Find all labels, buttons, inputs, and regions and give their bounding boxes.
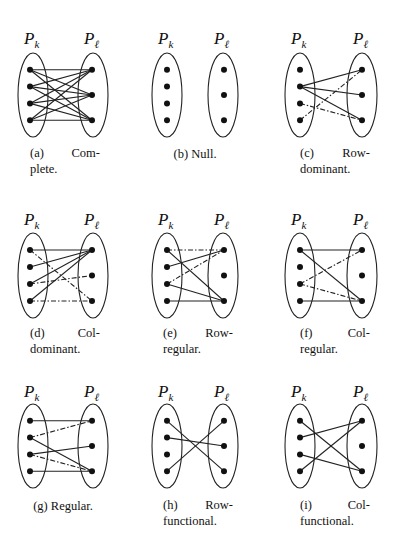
node-k <box>297 435 303 441</box>
node-k <box>164 298 170 304</box>
label-p-l: Pℓ <box>84 30 99 50</box>
node-l <box>221 273 227 279</box>
node-k <box>27 84 33 90</box>
node-l <box>221 443 227 449</box>
node-k <box>164 468 170 474</box>
node-l <box>89 273 95 279</box>
node-k <box>297 247 303 253</box>
node-k <box>27 418 33 424</box>
label-p-l: Pℓ <box>84 211 99 231</box>
label-p-k: Pk <box>24 30 39 50</box>
label-p-k: Pk <box>291 30 306 50</box>
node-l <box>359 273 365 279</box>
label-p-k: Pk <box>291 383 306 403</box>
edge-solid <box>30 250 92 284</box>
partition-k-ellipse <box>152 53 182 137</box>
node-k <box>164 264 170 270</box>
bipartite-diagram-grid <box>0 0 393 550</box>
label-p-k: Pk <box>291 211 306 231</box>
node-k <box>297 100 303 106</box>
node-l <box>221 67 227 73</box>
label-p-k: Pk <box>24 383 39 403</box>
partition-k-ellipse <box>285 233 315 318</box>
node-k <box>27 100 33 106</box>
edge-dashdot <box>300 284 362 301</box>
label-p-l: Pℓ <box>214 383 229 403</box>
node-l <box>221 92 227 98</box>
panel-c <box>285 53 377 137</box>
node-l <box>221 247 227 253</box>
partition-k-ellipse <box>152 233 182 318</box>
node-k <box>27 247 33 253</box>
edge-solid <box>300 421 362 438</box>
node-k <box>297 67 303 73</box>
node-k <box>27 451 33 457</box>
node-k <box>27 468 33 474</box>
edge-solid <box>167 438 224 446</box>
node-l <box>359 443 365 449</box>
caption-f: (f)Col-regular. <box>300 325 370 357</box>
node-l <box>221 298 227 304</box>
node-l <box>359 247 365 253</box>
edge-dashdot <box>30 454 92 471</box>
label-p-l: Pℓ <box>84 383 99 403</box>
edge-dashdot <box>300 103 362 120</box>
node-k <box>297 84 303 90</box>
edge-dashdot <box>167 250 224 284</box>
node-l <box>359 67 365 73</box>
panel-a <box>18 53 108 137</box>
edge-solid <box>300 250 362 301</box>
node-k <box>27 435 33 441</box>
edge-dashdot <box>300 250 362 284</box>
node-k <box>164 117 170 123</box>
caption-c: (c)Row-dominant. <box>300 145 370 177</box>
panel-h <box>152 404 238 488</box>
caption-h: (h)Row-functional. <box>163 497 233 529</box>
label-p-k: Pk <box>158 30 173 50</box>
panel-d <box>18 233 108 318</box>
edge-solid <box>167 250 224 301</box>
label-p-l: Pℓ <box>353 383 368 403</box>
edge-solid <box>30 446 92 454</box>
node-l <box>221 468 227 474</box>
partition-k-ellipse <box>152 404 182 488</box>
node-l <box>89 443 95 449</box>
node-l <box>89 67 95 73</box>
node-k <box>164 67 170 73</box>
partition-k-ellipse <box>18 404 48 488</box>
node-l <box>89 298 95 304</box>
node-l <box>89 418 95 424</box>
edge-solid <box>300 70 362 87</box>
node-k <box>297 468 303 474</box>
caption-g: (g) Regular. <box>13 498 113 514</box>
node-l <box>221 418 227 424</box>
node-k <box>297 418 303 424</box>
node-k <box>164 281 170 287</box>
edge-solid <box>300 87 362 121</box>
node-k <box>164 435 170 441</box>
partition-k-ellipse <box>18 53 48 137</box>
edge-solid <box>30 250 92 267</box>
caption-a: (a)Com-plete. <box>30 145 100 177</box>
panel-g <box>18 404 108 488</box>
label-p-k: Pk <box>158 383 173 403</box>
node-k <box>164 84 170 90</box>
caption-d: (d)Col-dominant. <box>30 325 100 357</box>
label-p-l: Pℓ <box>353 30 368 50</box>
node-k <box>297 264 303 270</box>
label-p-k: Pk <box>24 211 39 231</box>
label-p-k: Pk <box>158 211 173 231</box>
node-k <box>27 298 33 304</box>
panel-i <box>285 404 377 488</box>
node-l <box>359 298 365 304</box>
caption-e: (e)Row-regular. <box>163 325 233 357</box>
edge-solid <box>30 103 92 120</box>
panel-b <box>152 53 238 137</box>
node-l <box>221 117 227 123</box>
partition-k-ellipse <box>285 404 315 488</box>
label-p-l: Pℓ <box>214 30 229 50</box>
edge-solid <box>30 70 92 87</box>
edge-solid <box>167 284 224 301</box>
node-k <box>297 298 303 304</box>
caption-i: (i)Col-functional. <box>300 497 370 529</box>
